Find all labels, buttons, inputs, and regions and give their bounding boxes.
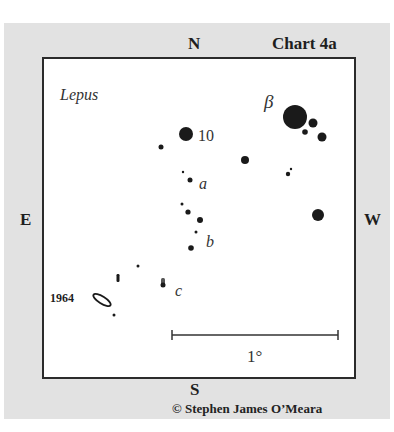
star [312, 209, 324, 221]
galaxy-ellipse-1964 [92, 292, 113, 309]
star [159, 145, 164, 150]
star [185, 209, 190, 214]
elongated-object [117, 274, 120, 282]
label-a: a [199, 175, 207, 192]
star-10 [179, 127, 193, 141]
star [286, 172, 290, 176]
objects-layer [92, 274, 166, 308]
star [290, 168, 292, 170]
label-beta: β [263, 91, 274, 112]
star-labels-layer: β10abc1964 [50, 91, 274, 305]
star-a [188, 178, 193, 183]
star [137, 265, 140, 268]
star [241, 156, 249, 164]
star-b [188, 245, 194, 251]
label-b: b [206, 233, 214, 250]
star [195, 231, 198, 234]
stars-layer [113, 105, 327, 317]
constellation-label: Lepus [59, 86, 98, 104]
star-beta [283, 105, 307, 129]
scale-bar: 1° [172, 330, 338, 366]
star [181, 203, 184, 206]
label-c: c [175, 282, 182, 299]
label-10: 10 [198, 127, 214, 144]
star [182, 171, 184, 173]
object-c-core [161, 283, 166, 288]
star [318, 133, 327, 142]
scale-bar-label: 1° [247, 347, 262, 366]
star [197, 217, 203, 223]
star [113, 314, 116, 317]
star [309, 119, 318, 128]
label-1964: 1964 [50, 291, 74, 305]
star-chart: Lepus β10abc1964 1° [0, 0, 394, 432]
star [302, 129, 308, 135]
